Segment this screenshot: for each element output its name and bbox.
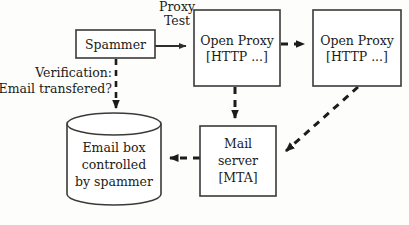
node-open-proxy-2-label-line2: [HTTP ...] bbox=[326, 49, 388, 64]
node-open-proxy-2[interactable]: Open Proxy [HTTP ...] bbox=[313, 10, 401, 86]
node-open-proxy-1-label-line1: Open Proxy bbox=[200, 33, 275, 48]
node-open-proxy-1[interactable]: Open Proxy [HTTP ...] bbox=[194, 10, 280, 86]
node-email-box-cylinder-top[interactable] bbox=[67, 113, 161, 135]
node-open-proxy-1-label-line2: [HTTP ...] bbox=[206, 49, 268, 64]
edge-label-verification-line2: Email transfered? bbox=[0, 81, 112, 96]
edge-spammer-to-email-box: Verification: Email transfered? bbox=[0, 59, 116, 108]
node-mail-server-label-line3: [MTA] bbox=[218, 170, 257, 185]
node-email-box-label-line3: by spammer bbox=[75, 174, 153, 189]
node-open-proxy-2-label-line1: Open Proxy bbox=[320, 33, 395, 48]
node-email-box-label-line1: Email box bbox=[83, 140, 146, 155]
edge-label-verification-line1: Verification: bbox=[34, 65, 112, 80]
edge-open-proxy-2-to-mail-server bbox=[286, 87, 358, 151]
edge-spammer-to-open-proxy-1: Proxy Test bbox=[155, 0, 196, 46]
node-email-box[interactable]: Email box controlled by spammer bbox=[67, 113, 161, 205]
node-mail-server[interactable]: Mail server [MTA] bbox=[200, 126, 276, 196]
node-spammer[interactable]: Spammer bbox=[76, 30, 155, 58]
node-email-box-label-line2: controlled bbox=[82, 157, 147, 172]
edge-label-proxy-test-line1: Proxy bbox=[159, 0, 196, 14]
diagram-svg: Proxy Test Verification: Email transfere… bbox=[0, 0, 409, 225]
edge-label-proxy-test-line2: Test bbox=[164, 13, 190, 28]
diagram-canvas: Proxy Test Verification: Email transfere… bbox=[0, 0, 409, 225]
node-spammer-label: Spammer bbox=[85, 37, 146, 52]
node-mail-server-label-line1: Mail bbox=[224, 136, 252, 151]
node-mail-server-label-line2: server bbox=[218, 153, 258, 168]
edge-line bbox=[286, 87, 358, 151]
